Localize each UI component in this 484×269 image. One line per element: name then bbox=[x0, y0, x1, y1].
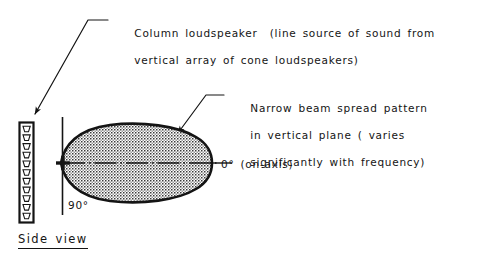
annotation-beam-line2: in vertical plane ( varies bbox=[250, 129, 405, 141]
cone-driver-array bbox=[23, 126, 30, 219]
annotation-speaker-line2: vertical array of cone loudspeakers) bbox=[134, 54, 358, 66]
column-loudspeaker bbox=[20, 123, 34, 223]
caption-side-view: Side view bbox=[18, 233, 88, 249]
figure-canvas: Column loudspeaker (line source of sound… bbox=[0, 0, 484, 269]
leader-beam bbox=[178, 95, 224, 133]
label-90-degree: 90° bbox=[68, 199, 89, 213]
annotation-speaker-line1: Column loudspeaker (line source of sound… bbox=[134, 27, 435, 39]
label-on-axis: 0° (on-axis) bbox=[221, 158, 293, 172]
annotation-column-loudspeaker: Column loudspeaker (line source of sound… bbox=[110, 13, 435, 81]
leader-speaker bbox=[35, 20, 108, 114]
annotation-beam-line1: Narrow beam spread pattern bbox=[250, 102, 427, 114]
